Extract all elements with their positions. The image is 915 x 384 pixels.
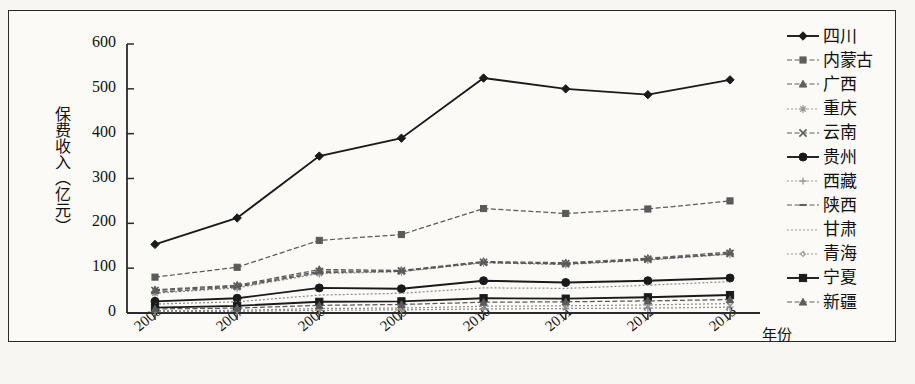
chart-figure: 保费收入（亿元） 0100200300400500600 20062007200… bbox=[0, 0, 915, 384]
legend-label: 宁夏 bbox=[820, 269, 856, 286]
legend-marker-plus-icon bbox=[786, 174, 820, 188]
legend-label: 甘肃 bbox=[820, 221, 856, 238]
legend-item-甘肃[interactable]: 甘肃 bbox=[786, 218, 910, 242]
legend-marker-star4-icon bbox=[786, 102, 820, 116]
legend-label: 云南 bbox=[820, 124, 856, 141]
legend-marker-none-icon bbox=[786, 223, 820, 237]
legend-item-四川[interactable]: 四川 bbox=[786, 24, 910, 48]
legend-marker-square-icon bbox=[786, 53, 820, 67]
legend-label: 西藏 bbox=[820, 173, 856, 190]
legend-item-云南[interactable]: 云南 bbox=[786, 121, 910, 145]
legend-marker-triangle-icon bbox=[786, 77, 820, 91]
series-陕西 bbox=[151, 254, 733, 293]
legend-item-贵州[interactable]: 贵州 bbox=[786, 145, 910, 169]
legend-marker-triangle-icon bbox=[786, 295, 820, 309]
legend-label: 贵州 bbox=[820, 149, 856, 166]
legend-marker-smalldia-icon bbox=[786, 247, 820, 261]
legend-item-青海[interactable]: 青海 bbox=[786, 242, 910, 266]
legend-marker-dash-icon bbox=[786, 198, 820, 212]
legend-item-重庆[interactable]: 重庆 bbox=[786, 97, 910, 121]
legend-label: 青海 bbox=[820, 245, 856, 262]
chart-legend: 四川内蒙古广西重庆云南贵州西藏陕西甘肃青海宁夏新疆 bbox=[786, 24, 910, 314]
legend-item-陕西[interactable]: 陕西 bbox=[786, 193, 910, 217]
legend-item-广西[interactable]: 广西 bbox=[786, 72, 910, 96]
legend-marker-square-icon bbox=[786, 271, 820, 285]
legend-label: 陕西 bbox=[820, 197, 856, 214]
series-四川 bbox=[151, 74, 734, 249]
legend-item-内蒙古[interactable]: 内蒙古 bbox=[786, 48, 910, 72]
legend-label: 重庆 bbox=[820, 100, 856, 117]
plot-area bbox=[0, 0, 915, 384]
legend-label: 内蒙古 bbox=[820, 52, 873, 69]
legend-marker-diamond-icon bbox=[786, 29, 820, 43]
legend-marker-cross-icon bbox=[786, 126, 820, 140]
legend-marker-circle-icon bbox=[786, 150, 820, 164]
legend-label: 四川 bbox=[820, 28, 856, 45]
legend-item-新疆[interactable]: 新疆 bbox=[786, 290, 910, 314]
legend-label: 广西 bbox=[820, 76, 856, 93]
legend-item-宁夏[interactable]: 宁夏 bbox=[786, 266, 910, 290]
legend-label: 新疆 bbox=[820, 294, 856, 311]
legend-item-西藏[interactable]: 西藏 bbox=[786, 169, 910, 193]
axes bbox=[127, 44, 760, 320]
